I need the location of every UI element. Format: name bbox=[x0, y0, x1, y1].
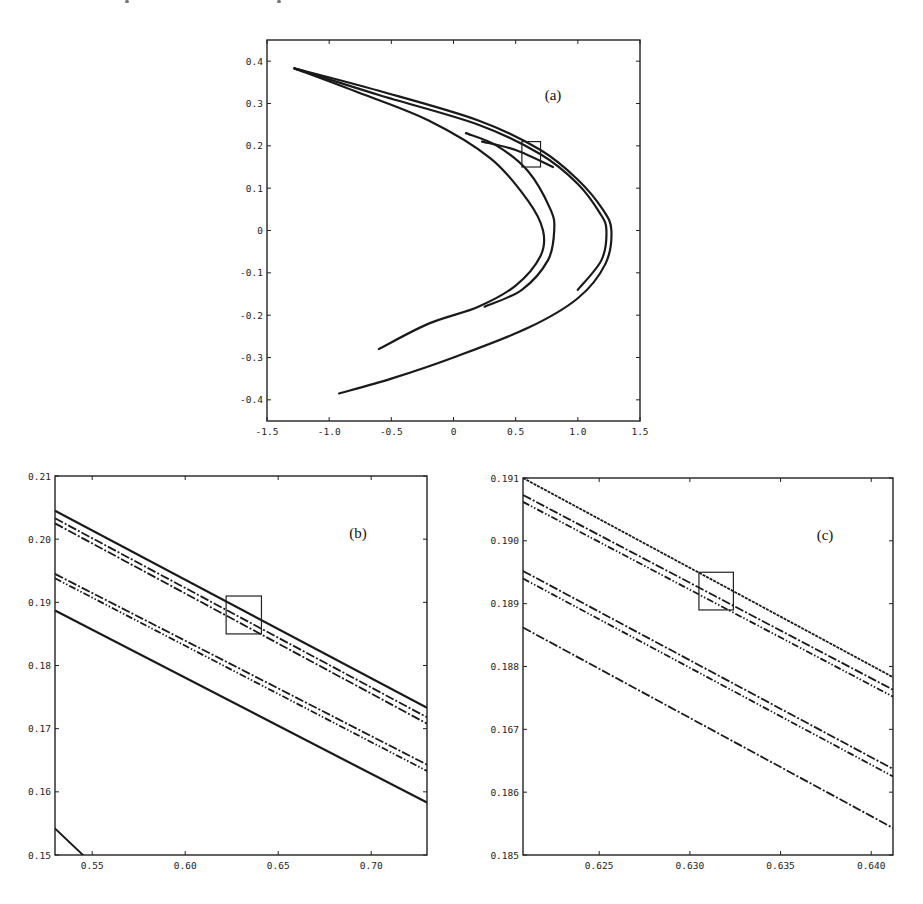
series-group bbox=[523, 478, 893, 828]
chart-panel-c: 0.6250.6300.6350.6400.1910.1900.1890.188… bbox=[0, 0, 923, 904]
y-tick-label: 0.189 bbox=[490, 598, 519, 609]
x-tick-label: 0.625 bbox=[585, 860, 614, 871]
y-tick-label: 0.188 bbox=[490, 661, 519, 672]
x-tick-label: 0.635 bbox=[766, 860, 795, 871]
series-line bbox=[523, 502, 893, 697]
series-line bbox=[523, 579, 893, 777]
x-tick-label: 0.640 bbox=[857, 860, 886, 871]
magnification-box bbox=[699, 572, 733, 610]
series-line bbox=[523, 495, 893, 690]
series-line bbox=[523, 478, 893, 677]
zoom-plot-c: 0.6250.6300.6350.6400.1910.1900.1890.188… bbox=[0, 0, 923, 904]
panel-label: (c) bbox=[817, 527, 834, 544]
y-tick-label: 0.191 bbox=[490, 473, 519, 484]
series-line bbox=[523, 571, 893, 769]
y-tick-label: 0.186 bbox=[490, 787, 519, 798]
series-line bbox=[523, 628, 893, 828]
y-tick-label: 0.167 bbox=[490, 724, 519, 735]
x-tick-label: 0.630 bbox=[676, 860, 705, 871]
y-tick-label: 0.190 bbox=[490, 535, 519, 546]
y-tick-label: 0.185 bbox=[490, 850, 519, 861]
